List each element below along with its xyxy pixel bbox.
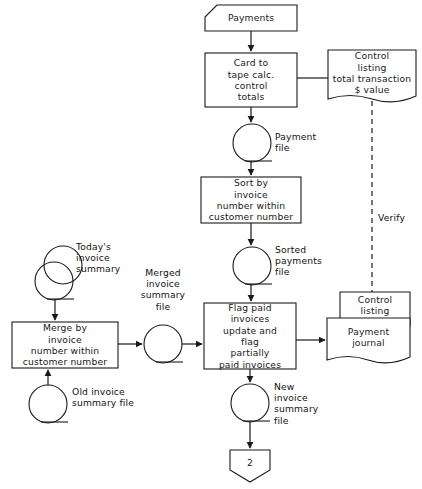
label-flag-paid-invoices: Flag paid invoices update and flag parti… — [204, 303, 296, 369]
shape-sorted-payments-file — [233, 247, 271, 285]
label-card-to-tape: Card to tape calc. control totals — [205, 53, 297, 107]
label-control-listing-totals: Control listing total transaction $ valu… — [326, 50, 418, 96]
label-payment-journal: Payment journal — [327, 320, 410, 354]
label-payments-input: Payments — [205, 5, 297, 31]
label-offpage-connector: 2 — [228, 452, 272, 474]
shape-merged-invoice-summary-file — [144, 325, 182, 363]
shape-new-invoice-summary-file — [231, 384, 269, 422]
shape-old-invoice-summary-file — [29, 385, 67, 423]
label-control-listing: Control listing — [340, 291, 410, 319]
label-sort-by-invoice: Sort by invoice number within customer n… — [201, 177, 301, 223]
shape-todays-invoice-summary-front — [35, 262, 73, 300]
shape-todays-invoice-summary-back — [44, 246, 82, 284]
label-merge-by-invoice: Merge by invoice number within customer … — [12, 322, 118, 368]
shape-payment-file — [233, 124, 271, 162]
